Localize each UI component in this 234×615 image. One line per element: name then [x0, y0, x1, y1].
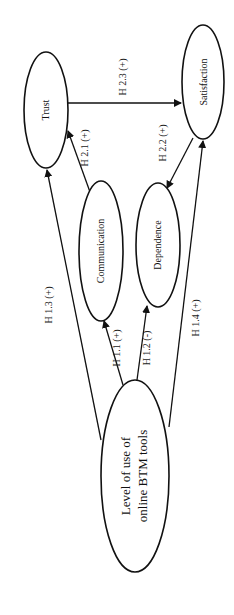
edge-label-h21: H 2.1 (+) — [79, 129, 91, 166]
edge-label-h23: H 2.3 (+) — [117, 58, 129, 95]
node-communication-label: Communication — [95, 219, 106, 283]
edge-label-h11: H 1.1 (+) — [111, 329, 123, 366]
edge-label-h22: H 2.2 (+) — [157, 124, 169, 161]
path-model-diagram: Trust Satisfaction Communication Depende… — [0, 0, 234, 615]
node-level-of-use-label-line1: Level of use of — [118, 436, 133, 515]
node-dependence-label: Dependence — [152, 220, 163, 270]
node-communication: Communication — [79, 181, 123, 321]
node-level-of-use-label-line2: online BTM tools — [135, 430, 150, 522]
node-dependence: Dependence — [136, 183, 180, 307]
edge-label-h13: H 1.3 (+) — [43, 286, 55, 323]
node-trust-label: Trust — [40, 99, 51, 120]
node-satisfaction: Satisfaction — [182, 25, 224, 139]
edge-label-h14: H 1.4 (+) — [190, 299, 202, 336]
node-satisfaction-label: Satisfaction — [198, 58, 209, 105]
node-level-of-use: Level of use of online BTM tools — [101, 380, 169, 572]
node-trust: Trust — [24, 52, 68, 168]
edge-h22-satisfaction-to-dependence — [167, 138, 193, 188]
edge-label-h12: H 1.2 (-) — [141, 331, 153, 366]
